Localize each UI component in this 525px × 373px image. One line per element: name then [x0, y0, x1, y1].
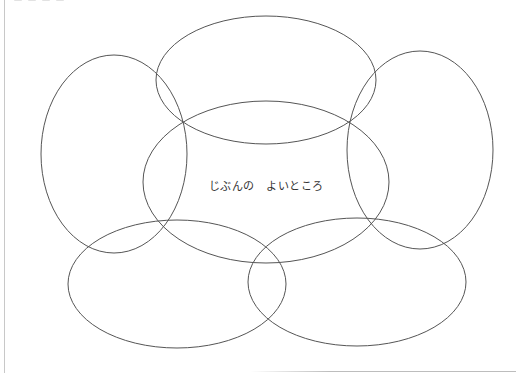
- petal-ellipse-right: [347, 51, 493, 249]
- center-label: じぶんの よいところ: [209, 177, 324, 193]
- petal-ellipse-top: [156, 16, 376, 144]
- petal-ellipse-left: [41, 55, 187, 253]
- petal-ellipse-bottom-left: [68, 220, 286, 348]
- petal-ellipse-bottom-right: [248, 218, 466, 346]
